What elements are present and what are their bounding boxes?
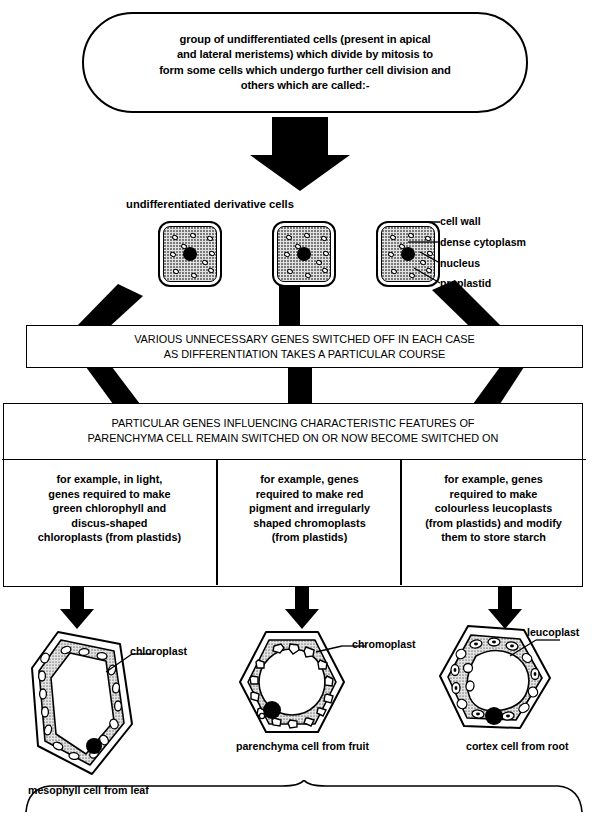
genes-switched-off-box: VARIOUS UNNECESSARY GENES SWITCHED OFF I… xyxy=(26,325,583,368)
genes-switched-off-text: VARIOUS UNNECESSARY GENES SWITCHED OFF I… xyxy=(134,332,475,362)
col2-line-4: shaped chromoplasts xyxy=(218,516,401,531)
arrow-shaft-mesophyll xyxy=(70,587,84,609)
proplastid xyxy=(387,251,395,258)
col1-line-1: for example, in light, xyxy=(2,472,216,487)
cell-wall xyxy=(163,226,217,282)
label-chloroplast: chloroplast xyxy=(130,645,187,657)
label-cell-wall: cell wall xyxy=(440,215,481,227)
arrow-shaft-root xyxy=(498,587,512,609)
fruit-parenchyma-cell-drawing xyxy=(232,628,372,748)
col2-line-2: required to make red xyxy=(218,487,401,502)
col1-line-4: discus-shaped xyxy=(2,516,216,531)
col2-line-5: (from plastids) xyxy=(218,530,401,545)
box2-heading-line-2: PARENCHYMA CELL REMAIN SWITCHED ON OR NO… xyxy=(4,431,582,446)
proplastid xyxy=(189,232,197,239)
col1-line-5: chloroplasts (from plastids) xyxy=(2,530,216,545)
col1-line-3: green chlorophyll and xyxy=(2,501,216,516)
proplastid xyxy=(320,235,328,242)
proplastid xyxy=(389,234,397,241)
connector-left xyxy=(75,284,143,328)
proplastid xyxy=(208,250,216,257)
caption-parenchyma-cell: parenchyma cell from fruit xyxy=(236,740,369,752)
arrow-shaft-fruit xyxy=(295,587,309,609)
proplastid xyxy=(390,268,398,275)
column-chloroplast: for example, in light, genes required to… xyxy=(2,459,217,585)
main-down-arrow-icon xyxy=(250,155,350,191)
nucleus xyxy=(86,738,102,754)
undifferentiated-cell-1 xyxy=(158,221,222,287)
particular-genes-box: PARTICULAR GENES INFLUENCING CHARACTERIS… xyxy=(3,403,583,587)
proplastid xyxy=(207,267,215,274)
label-chromoplast: chromoplast xyxy=(352,638,416,650)
col3-line-1: for example, genes xyxy=(401,472,586,487)
proplastid xyxy=(304,272,312,279)
meristem-description-box: group of undifferentiated cells (present… xyxy=(82,12,528,113)
cell-wall xyxy=(277,226,331,282)
derivative-cells-heading: undifferentiated derivative cells xyxy=(0,198,420,210)
nucleus xyxy=(485,707,503,725)
meristem-line-2: and lateral meristems) which divide by m… xyxy=(159,47,451,63)
nucleus xyxy=(263,701,281,719)
proplastid xyxy=(285,234,293,241)
col3-line-2: required to make xyxy=(401,487,586,502)
proplastid xyxy=(286,268,294,275)
column-leucoplast: for example, genes required to make colo… xyxy=(400,459,586,585)
proplastid xyxy=(321,267,329,274)
proplastid xyxy=(322,250,330,257)
column-chloroplast-text: for example, in light, genes required to… xyxy=(2,472,216,545)
proplastid xyxy=(190,272,198,279)
col3-line-5: them to store starch xyxy=(401,530,586,545)
proplastid xyxy=(171,234,179,241)
connector-right xyxy=(432,280,500,325)
col2-line-1: for example, genes xyxy=(218,472,401,487)
proplastid xyxy=(169,251,177,258)
column-leucoplast-text: for example, genes required to make colo… xyxy=(401,472,586,545)
column-chromoplast-text: for example, genes required to make red … xyxy=(218,472,401,545)
undifferentiated-cell-2 xyxy=(272,221,336,287)
meristem-description-text: group of undifferentiated cells (present… xyxy=(159,32,451,94)
connectors-cells-to-box1 xyxy=(0,280,610,330)
main-down-arrow-shaft xyxy=(272,117,328,157)
connector-right xyxy=(473,367,524,404)
label-dense-cytoplasm: dense cytoplasm xyxy=(440,236,526,248)
box1-line-1: VARIOUS UNNECESSARY GENES SWITCHED OFF I… xyxy=(134,332,475,347)
small-vesicle xyxy=(259,713,264,718)
particular-genes-heading: PARTICULAR GENES INFLUENCING CHARACTERIS… xyxy=(4,416,582,446)
proplastid xyxy=(283,251,291,258)
box2-heading-line-1: PARTICULAR GENES INFLUENCING CHARACTERIS… xyxy=(4,416,582,431)
box1-line-2: AS DIFFERENTIATION TAKES A PARTICULAR CO… xyxy=(134,347,475,362)
root-cortex-cell-drawing xyxy=(432,620,582,745)
proplastid xyxy=(303,232,311,239)
connector-middle xyxy=(288,367,312,404)
label-nucleus: nucleus xyxy=(440,257,480,269)
col2-line-3: pigment and irregularly xyxy=(218,501,401,516)
label-leucoplast: leucoplast xyxy=(527,626,579,638)
col3-line-3: colourless leucoplasts xyxy=(401,501,586,516)
proplastid xyxy=(315,259,323,266)
col1-line-2: genes required to make xyxy=(2,487,216,502)
vacuole xyxy=(467,650,529,710)
connector-left xyxy=(86,367,140,404)
column-chromoplast: for example, genes required to make red … xyxy=(217,459,402,585)
proplastid xyxy=(201,259,209,266)
col3-line-4: (from plastids) and modify xyxy=(401,516,586,531)
arrow-down-fruit-icon xyxy=(285,609,319,629)
meristem-line-4: others which are called:- xyxy=(159,78,451,94)
arrow-down-mesophyll-icon xyxy=(60,609,94,629)
proplastid xyxy=(172,268,180,275)
meristem-line-1: group of undifferentiated cells (present… xyxy=(159,32,451,48)
meristem-line-3: form some cells which undergo further ce… xyxy=(159,63,451,79)
proplastid xyxy=(206,235,214,242)
bottom-brace xyxy=(24,780,584,814)
connectors-box1-to-box2 xyxy=(0,367,610,405)
caption-cortex-cell: cortex cell from root xyxy=(466,740,568,752)
connector-middle xyxy=(279,286,300,328)
